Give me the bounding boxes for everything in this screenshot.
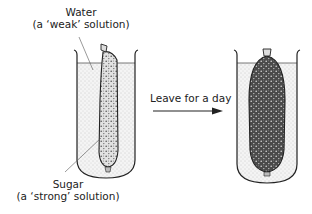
arrow-right-icon <box>153 108 223 115</box>
beaker-after <box>234 49 300 183</box>
label-arrow: Leave for a day <box>150 92 226 104</box>
label-sugar: Sugar (a ‘strong’ solution) <box>8 178 128 202</box>
beaker-before <box>65 37 138 178</box>
label-sugar-desc: (a ‘strong’ solution) <box>8 190 128 202</box>
label-sugar-title: Sugar <box>8 178 128 190</box>
sugar-bag-thin <box>99 52 118 167</box>
label-water-title: Water <box>26 6 136 18</box>
label-water: Water (a ‘weak’ solution) <box>26 6 136 30</box>
label-water-desc: (a ‘weak’ solution) <box>26 18 136 30</box>
sugar-bag-swollen <box>249 56 285 172</box>
